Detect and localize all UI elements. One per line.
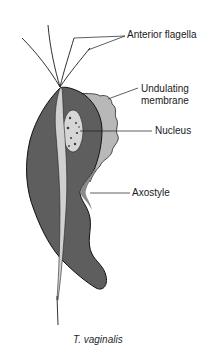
trichomonas-diagram <box>0 0 216 360</box>
anterior-flagella <box>22 25 90 87</box>
label-axostyle: Axostyle <box>132 187 170 199</box>
figure-caption: T. vaginalis <box>73 334 123 345</box>
posterior-axostyle-tip <box>57 296 58 325</box>
label-undulating-membrane-1: Undulating <box>141 83 189 95</box>
label-nucleus: Nucleus <box>155 125 191 137</box>
label-anterior-flagella: Anterior flagella <box>127 29 196 41</box>
label-undulating-membrane-2: membrane <box>141 95 189 107</box>
